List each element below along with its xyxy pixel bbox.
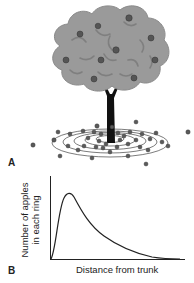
tree-illustration (31, 6, 190, 166)
y-axis-label-line1: Number of apples (19, 183, 30, 258)
distribution-curve (51, 193, 180, 259)
x-axis-label: Distance from trunk (76, 264, 158, 275)
distribution-chart (50, 176, 185, 260)
y-axis-label-line2: in each ring (30, 183, 41, 258)
canopy (53, 6, 169, 91)
panel-label-a: A (8, 157, 15, 168)
panel-label-b: B (8, 265, 15, 276)
y-axis-label: Number of apples in each ring (19, 183, 41, 258)
